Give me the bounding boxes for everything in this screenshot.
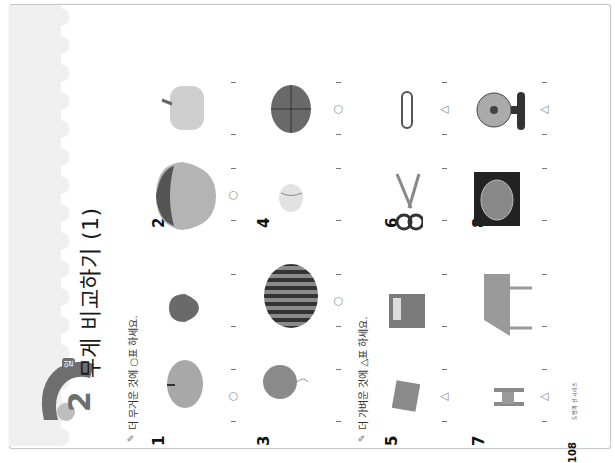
answer-box[interactable]: △ (538, 106, 549, 114)
answer-paren (231, 326, 236, 327)
small-book-image (392, 380, 420, 412)
big-book-image (387, 292, 427, 332)
problem-number-1: 1 (150, 436, 168, 446)
problem-number-4: 4 (255, 218, 273, 228)
answer-paren (231, 274, 236, 275)
answer-paren (336, 168, 341, 169)
answer-paren (542, 82, 547, 83)
problem-number-5: 5 (383, 436, 401, 446)
answer-paren (542, 168, 547, 169)
problem-number-7: 7 (470, 436, 488, 446)
bell-pepper-image (160, 82, 206, 134)
answer-paren (231, 134, 236, 135)
answer-paren (542, 421, 547, 422)
instruction-lighter: 더 가벼운 것에 △표 하세요. (355, 316, 370, 430)
answer-paren (442, 134, 447, 135)
answer-paren (442, 421, 447, 422)
answer-paren (442, 326, 447, 327)
answer-paren (231, 220, 236, 221)
apple-image (165, 358, 205, 410)
answer-paren (231, 82, 236, 83)
scissors-image (393, 170, 423, 234)
page-title: 무게 비교하기 (1) (72, 207, 104, 378)
answer-paren (442, 274, 447, 275)
book-name: 도형의 신 시리즈 (570, 382, 577, 420)
answer-paren (231, 168, 236, 169)
answer-paren (231, 369, 236, 370)
answer-box[interactable]: ○ (332, 104, 343, 114)
pencil-icon: ✎ (126, 434, 136, 442)
strawberry-image (165, 290, 201, 326)
answer-paren (442, 168, 447, 169)
watermelon-image (262, 262, 320, 330)
day-number: 2 (62, 391, 97, 412)
basketball-image (270, 84, 312, 134)
answer-paren (336, 421, 341, 422)
answer-paren (542, 134, 547, 135)
answer-paren (542, 274, 547, 275)
washing-machine-image (472, 170, 522, 228)
answer-paren (442, 82, 447, 83)
answer-paren (542, 326, 547, 327)
tennis-ball-image (278, 183, 304, 213)
answer-paren (336, 134, 341, 135)
answer-box[interactable]: ○ (227, 190, 238, 200)
answer-paren (542, 369, 547, 370)
answer-paren (336, 369, 341, 370)
answer-paren (336, 326, 341, 327)
problem-number-3: 3 (255, 436, 273, 446)
answer-paren (231, 421, 236, 422)
answer-paren (542, 220, 547, 221)
desk-fan-image (476, 84, 528, 136)
paper-clip-image (400, 90, 414, 130)
instruction-heavier: 더 무거운 것에 ○표 하세요. (125, 315, 140, 430)
answer-paren (442, 220, 447, 221)
toy-chair-image (490, 378, 526, 414)
answer-paren (336, 274, 341, 275)
answer-box[interactable]: △ (538, 393, 549, 401)
answer-box[interactable]: △ (438, 393, 449, 401)
answer-box[interactable]: ○ (227, 391, 238, 401)
answer-paren (336, 220, 341, 221)
table-image (480, 270, 535, 342)
balloon-image (260, 360, 310, 404)
answer-box[interactable]: △ (438, 106, 449, 114)
cabbage-image (152, 160, 218, 232)
pencil-icon: ✎ (357, 434, 367, 442)
page-number: 108 (567, 442, 578, 463)
answer-box[interactable]: ○ (332, 296, 343, 306)
answer-paren (336, 82, 341, 83)
answer-paren (442, 369, 447, 370)
